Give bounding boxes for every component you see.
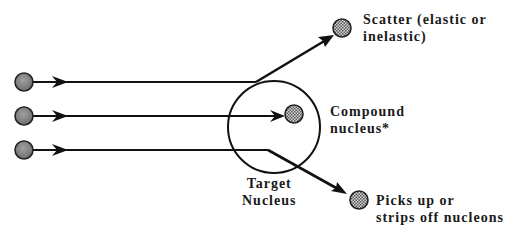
pickup-label-line1: Picks up or (376, 192, 504, 209)
scatter-label-line2: inelastic) (363, 28, 487, 45)
compound-path (33, 110, 285, 122)
projectile-particle (15, 73, 33, 91)
compound-label: Compound nucleus* (330, 103, 405, 137)
pickup-label: Picks up or strips off nucleons (376, 192, 504, 226)
scatter-path (33, 35, 334, 88)
scatter-label-line1: Scatter (elastic or (363, 11, 487, 28)
scatter-particle (333, 19, 351, 37)
compound-nucleus-particle (285, 105, 303, 123)
arrowhead-icon (331, 182, 347, 194)
target-label-line1: Target (242, 175, 296, 192)
pickup-path (33, 144, 347, 194)
pickup-particle (350, 191, 368, 209)
compound-label-line1: Compound (330, 103, 405, 120)
scatter-label: Scatter (elastic or inelastic) (363, 11, 487, 45)
target-nucleus (228, 81, 320, 173)
projectile-particle (15, 141, 33, 159)
pickup-label-line2: strips off nucleons (376, 209, 504, 226)
target-label: Target Nucleus (242, 175, 296, 209)
target-label-line2: Nucleus (242, 192, 296, 209)
compound-label-line2: nucleus* (330, 120, 405, 137)
projectile-particle (15, 107, 33, 125)
arrowhead-icon (318, 35, 334, 47)
